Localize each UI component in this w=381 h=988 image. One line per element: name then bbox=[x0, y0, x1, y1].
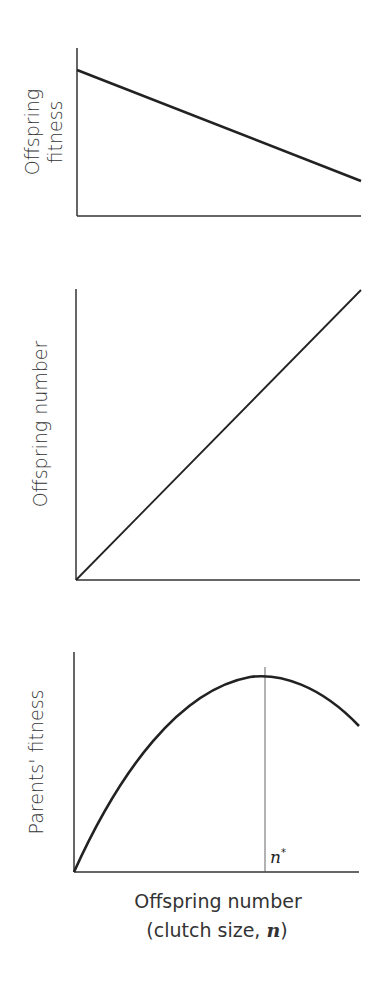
x-label-line2: (clutch size, n) bbox=[146, 919, 287, 941]
panel-parents-fitness: Parents' fitness n* bbox=[25, 652, 359, 872]
optimum-label: n* bbox=[270, 847, 286, 867]
y-label-line1: Offspring bbox=[21, 89, 43, 176]
offspring-fitness-line bbox=[77, 70, 361, 181]
offspring-number-line bbox=[76, 290, 361, 580]
y-label: Offspring number bbox=[29, 340, 51, 507]
parents-fitness-curve bbox=[74, 676, 359, 872]
panel-offspring-fitness: Offspring fitness bbox=[21, 48, 361, 216]
x-axis-label: Offspring number (clutch size, n) bbox=[134, 890, 302, 941]
y-label: Parents' fitness bbox=[25, 690, 47, 835]
y-label-line2: fitness bbox=[44, 101, 66, 164]
x-label-line1: Offspring number bbox=[134, 890, 302, 912]
panel-offspring-number: Offspring number bbox=[29, 289, 361, 580]
figure: Offspring fitness Offspring number Paren… bbox=[0, 0, 381, 988]
